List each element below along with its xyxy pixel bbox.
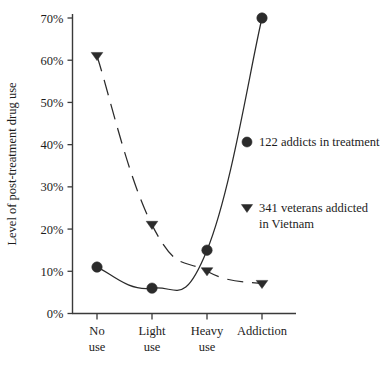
data-point-circle xyxy=(257,13,267,23)
y-axis-tick-label: 10% xyxy=(41,265,64,279)
legend-label: 122 addicts in treatment xyxy=(259,135,380,149)
x-axis-tick-label: Heavy xyxy=(191,324,224,338)
data-point-circle xyxy=(92,262,102,272)
y-axis-title-text: Level of post-treatment drug use xyxy=(5,82,19,246)
y-axis-tick-label: 30% xyxy=(41,180,64,194)
data-point-circle xyxy=(202,245,212,255)
y-axis-tick-label: 40% xyxy=(41,138,64,152)
legend-label: in Vietnam xyxy=(259,217,314,231)
y-axis-tick-label: 50% xyxy=(41,96,64,110)
y-axis-tick-label: 70% xyxy=(41,12,64,26)
legend-label: 341 veterans addicted xyxy=(259,201,369,215)
drug-use-line-chart: 0%10%20%30%40%50%60%70% NouseLightuseHea… xyxy=(0,0,391,377)
x-axis-tick-label: use xyxy=(199,340,216,354)
data-point-circle xyxy=(147,283,157,293)
y-axis-tick-label: 0% xyxy=(47,307,64,321)
x-axis-tick-label: Addiction xyxy=(237,324,288,338)
x-axis-tick-label: Light xyxy=(138,324,166,338)
legend-marker-circle xyxy=(242,137,252,147)
x-axis-tick-label: No xyxy=(89,324,104,338)
x-axis-tick-label: use xyxy=(89,340,106,354)
y-axis-title: Level of post-treatment drug use xyxy=(5,82,19,246)
y-axis-tick-label: 20% xyxy=(41,223,64,237)
x-axis-tick-label: use xyxy=(144,340,161,354)
chart-container: 0%10%20%30%40%50%60%70% NouseLightuseHea… xyxy=(0,0,391,377)
y-axis-tick-label: 60% xyxy=(41,54,64,68)
